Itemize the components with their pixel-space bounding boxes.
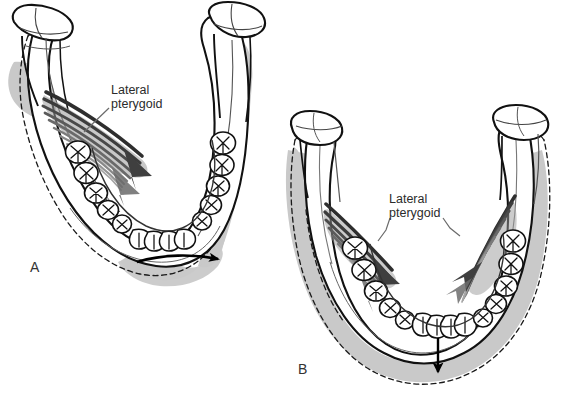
panel-a: Lateral pterygoid A	[8, 2, 265, 286]
panel-a-letter: A	[30, 259, 40, 275]
mandible-illustration: Lateral pterygoid A	[0, 0, 567, 394]
panel-b-leader-lines	[378, 218, 460, 241]
panel-a-muscle-label-line2: pterygoid	[111, 97, 162, 111]
panel-b: Lateral pterygoid B	[286, 105, 550, 384]
panel-a-muscle-label-line1: Lateral	[111, 83, 149, 97]
panel-b-muscle-label-line2: pterygoid	[389, 206, 440, 220]
panel-b-letter: B	[298, 361, 307, 377]
panel-b-muscle-label-line1: Lateral	[389, 192, 427, 206]
figure-container: Lateral pterygoid A	[0, 0, 567, 394]
